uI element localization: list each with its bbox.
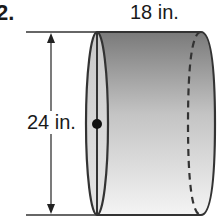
arrowhead-down-icon <box>47 204 55 214</box>
arrowhead-up-icon <box>47 33 55 43</box>
cylinder-body <box>97 32 215 215</box>
width-label: 18 in. <box>130 1 179 24</box>
center-point <box>92 119 102 129</box>
height-label: 24 in. <box>26 111 77 134</box>
problem-number: 2. <box>0 0 14 26</box>
